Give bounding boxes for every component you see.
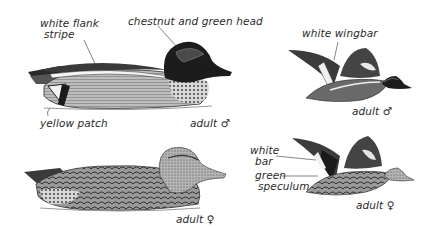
leader-chestnut-head xyxy=(158,26,178,48)
male-flying-duck xyxy=(288,42,412,102)
caption-adult-female-flying: adult ♀ xyxy=(356,200,395,211)
caption-adult-male-swimming: adult ♂ xyxy=(190,118,230,129)
leader-white-bar xyxy=(276,156,316,160)
callout-yellow-patch: yellow patch xyxy=(40,118,108,129)
leader-yellow-patch xyxy=(47,108,50,116)
callout-green-speculum-line2: speculum xyxy=(258,181,310,192)
leader-white-wingbar xyxy=(334,42,338,60)
callout-white-flank-stripe-line2: stripe xyxy=(44,29,75,40)
leader-white-flank-stripe xyxy=(84,40,96,66)
caption-adult-male-flying: adult ♂ xyxy=(352,106,392,117)
caption-adult-female-swimming: adult ♀ xyxy=(176,214,215,225)
female-swimming-duck xyxy=(24,147,226,211)
callout-white-bar-line2: bar xyxy=(255,156,273,167)
callout-chestnut-and-green-head: chestnut and green head xyxy=(128,16,263,27)
callout-white-wingbar: white wingbar xyxy=(302,28,378,39)
